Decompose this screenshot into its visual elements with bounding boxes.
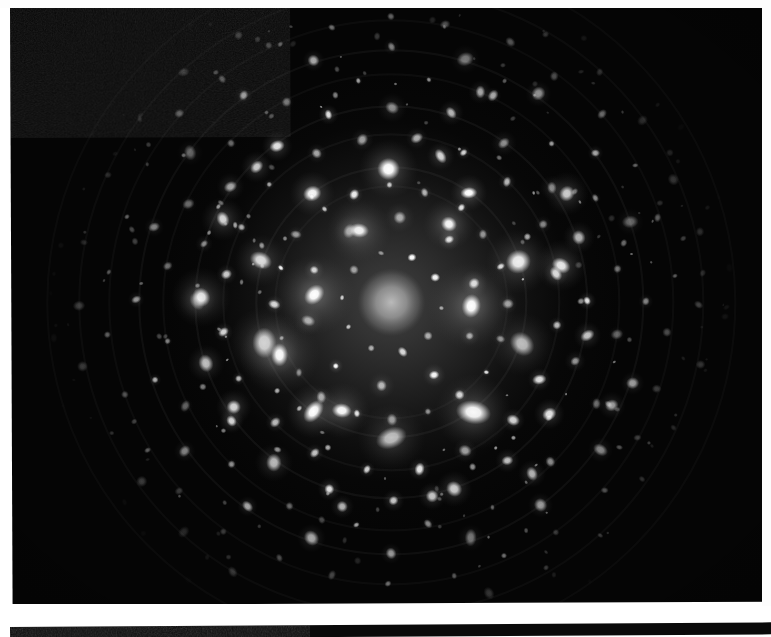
scanned-page: Selected-area electron diffraction patte… bbox=[0, 0, 771, 637]
page-margin-left bbox=[0, 0, 10, 637]
diffraction-spots-layer bbox=[10, 5, 765, 605]
diffraction-plate bbox=[10, 5, 765, 605]
page-margin-right bbox=[762, 0, 771, 606]
film-grain-2 bbox=[10, 625, 311, 637]
page-margin-top bbox=[0, 0, 771, 8]
